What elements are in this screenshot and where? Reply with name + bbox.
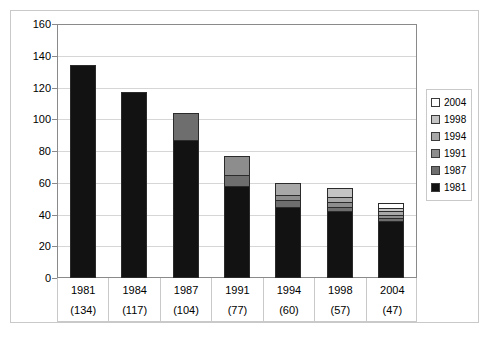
stacked-bar[interactable] (224, 156, 250, 278)
y-axis-tick-label: 80 (17, 146, 51, 156)
x-axis-label-table: 1981(134)1984(117)1987(104)1991(77)1994(… (57, 278, 417, 322)
x-axis-count-label: (57) (315, 304, 365, 316)
y-axis-tick-label: 40 (17, 210, 51, 220)
legend-swatch-icon (431, 149, 440, 158)
bar-segment[interactable] (173, 113, 199, 140)
legend-item-label: 1994 (444, 131, 466, 142)
stacked-bar[interactable] (70, 65, 96, 278)
legend-item[interactable]: 1994 (431, 128, 468, 145)
legend-swatch-icon (431, 98, 440, 107)
x-axis-count-label: (134) (58, 304, 108, 316)
x-axis-column: 2004(47) (367, 278, 418, 321)
legend-item[interactable]: 1981 (431, 179, 468, 196)
chart-frame: 160140120100806040200 1981(134)1984(117)… (10, 10, 479, 323)
y-axis-tick-label: 20 (17, 241, 51, 251)
legend-swatch-icon (431, 166, 440, 175)
y-axis-tick-label: 120 (17, 83, 51, 93)
x-axis-column: 1981(134) (58, 278, 109, 321)
bar-segment[interactable] (378, 221, 404, 278)
y-axis-tick-label: 0 (17, 273, 51, 283)
legend-item[interactable]: 2004 (431, 94, 468, 111)
x-axis-year-label: 2004 (367, 284, 418, 296)
bar-slot (108, 24, 159, 278)
x-axis-year-label: 1991 (212, 284, 262, 296)
x-axis-column: 1998(57) (315, 278, 366, 321)
x-axis-year-label: 1981 (58, 284, 108, 296)
legend-item-label: 1998 (444, 114, 466, 125)
bar-segment[interactable] (121, 92, 147, 278)
bar-series-layer (57, 24, 417, 278)
legend-item-label: 1987 (444, 165, 466, 176)
page-top-strip (0, 0, 491, 9)
stacked-bar[interactable] (378, 203, 404, 278)
stacked-bar[interactable] (121, 92, 147, 278)
legend-swatch-icon (431, 132, 440, 141)
x-axis-year-label: 1984 (109, 284, 159, 296)
bar-segment[interactable] (224, 156, 250, 175)
stacked-bar[interactable] (327, 188, 353, 278)
chart-plot-wrapper: 160140120100806040200 1981(134)1984(117)… (11, 11, 480, 324)
bar-segment[interactable] (275, 207, 301, 278)
x-axis-count-label: (60) (264, 304, 314, 316)
bar-slot (366, 24, 417, 278)
x-axis-year-label: 1998 (315, 284, 365, 296)
x-axis-column: 1987(104) (161, 278, 212, 321)
legend-item-label: 2004 (444, 97, 466, 108)
bar-slot (211, 24, 262, 278)
x-axis-count-label: (117) (109, 304, 159, 316)
stacked-bar[interactable] (275, 183, 301, 278)
x-axis-column: 1984(117) (109, 278, 160, 321)
legend-item[interactable]: 1998 (431, 111, 468, 128)
bar-slot (160, 24, 211, 278)
bar-segment[interactable] (224, 175, 250, 186)
y-axis-tick-label: 160 (17, 19, 51, 29)
bar-segment[interactable] (224, 186, 250, 278)
legend-item-label: 1981 (444, 182, 466, 193)
legend-item[interactable]: 1987 (431, 162, 468, 179)
bar-segment[interactable] (70, 65, 96, 278)
bar-segment[interactable] (327, 211, 353, 278)
y-axis-tick-label: 100 (17, 114, 51, 124)
x-axis-count-label: (104) (161, 304, 211, 316)
bar-segment[interactable] (327, 188, 353, 198)
legend-item[interactable]: 1991 (431, 145, 468, 162)
legend-swatch-icon (431, 183, 440, 192)
bar-slot (57, 24, 108, 278)
x-axis-column: 1994(60) (264, 278, 315, 321)
bar-segment[interactable] (173, 140, 199, 278)
x-axis-count-label: (77) (212, 304, 262, 316)
bar-segment[interactable] (275, 183, 301, 196)
y-axis-tick-label: 60 (17, 178, 51, 188)
bar-slot (314, 24, 365, 278)
legend-item-label: 1991 (444, 148, 466, 159)
stacked-bar[interactable] (173, 113, 199, 278)
y-axis-tick-label: 140 (17, 51, 51, 61)
x-axis-count-label: (47) (367, 304, 418, 316)
chart-legend: 200419981994199119871981 (426, 89, 472, 201)
legend-swatch-icon (431, 115, 440, 124)
bar-slot (263, 24, 314, 278)
x-axis-year-label: 1994 (264, 284, 314, 296)
x-axis-year-label: 1987 (161, 284, 211, 296)
x-axis-column: 1991(77) (212, 278, 263, 321)
